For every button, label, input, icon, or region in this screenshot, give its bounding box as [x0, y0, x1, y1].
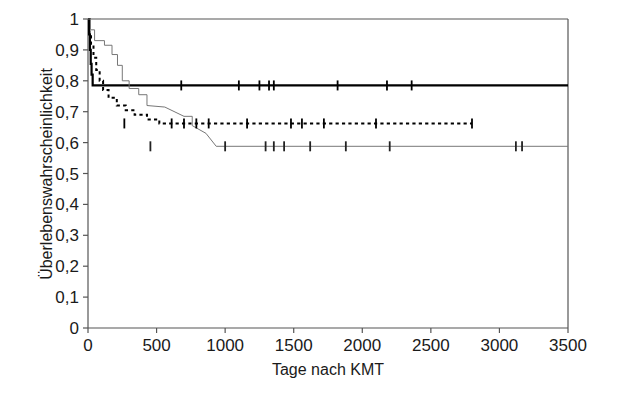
y-tick-label: 0,9 [55, 41, 79, 60]
x-tick-label: 500 [142, 336, 170, 355]
y-tick-label: 0,1 [55, 288, 79, 307]
y-tick-label: 1 [70, 10, 79, 29]
x-tick-label: 1500 [275, 336, 313, 355]
y-tick-label: 0,7 [55, 103, 79, 122]
x-tick-label: 0 [83, 336, 92, 355]
y-axis-title: Überlebenswahrscheinlichkeit [38, 68, 55, 280]
y-tick-label: 0,6 [55, 134, 79, 153]
y-tick-label: 0,4 [55, 195, 79, 214]
y-tick-label: 0,8 [55, 72, 79, 91]
x-axis-title: Tage nach KMT [272, 361, 384, 378]
survival-chart: 00,10,20,30,40,50,60,70,80,91 0500100015… [0, 0, 621, 409]
x-tick-label: 2000 [343, 336, 381, 355]
y-tick-label: 0,2 [55, 257, 79, 276]
x-tick-label: 2500 [412, 336, 450, 355]
x-tick-label: 1000 [206, 336, 244, 355]
y-axis-tick-labels: 00,10,20,30,40,50,60,70,80,91 [55, 10, 79, 338]
figure-container: 00,10,20,30,40,50,60,70,80,91 0500100015… [0, 0, 621, 409]
y-tick-label: 0,5 [55, 165, 79, 184]
y-tick-label: 0,3 [55, 226, 79, 245]
y-tick-label: 0 [70, 319, 79, 338]
x-tick-label: 3500 [549, 336, 587, 355]
x-tick-label: 3000 [481, 336, 519, 355]
